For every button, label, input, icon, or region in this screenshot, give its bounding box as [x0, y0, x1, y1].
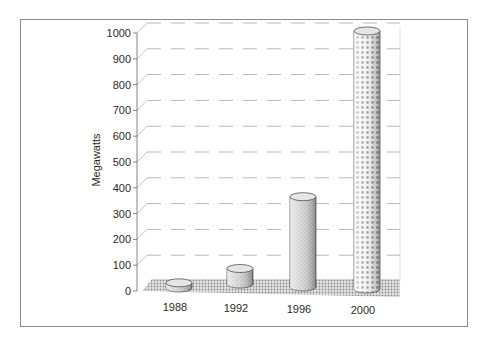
y-tick-label: 0: [125, 285, 131, 297]
y-tick-label: 900: [113, 53, 131, 65]
bar-chart: 01002003004005006007008009001000 1988199…: [0, 0, 485, 341]
bar-1992: [227, 265, 253, 288]
y-tick-label: 200: [113, 233, 131, 245]
y-tick-label: 100: [113, 259, 131, 271]
y-tick-label: 1000: [107, 27, 131, 39]
y-tick-label: 300: [113, 208, 131, 220]
y-tick-label: 500: [113, 156, 131, 168]
y-axis-label: Megawatts: [90, 133, 102, 187]
y-axis: 01002003004005006007008009001000: [107, 27, 137, 297]
x-tick-label: 1988: [163, 301, 187, 313]
y-tick-label: 700: [113, 104, 131, 116]
x-tick-label: 2000: [351, 304, 375, 316]
bars: [166, 27, 380, 293]
y-tick-label: 600: [113, 130, 131, 142]
y-tick-label: 400: [113, 182, 131, 194]
x-tick-label: 1992: [224, 302, 248, 314]
bar-1988: [166, 279, 192, 292]
y-tick-label: 800: [113, 79, 131, 91]
bar-2000: [354, 27, 380, 293]
bar-1996: [290, 193, 316, 291]
x-tick-label: 1996: [287, 303, 311, 315]
x-axis-labels: 1988199219962000: [163, 301, 375, 316]
